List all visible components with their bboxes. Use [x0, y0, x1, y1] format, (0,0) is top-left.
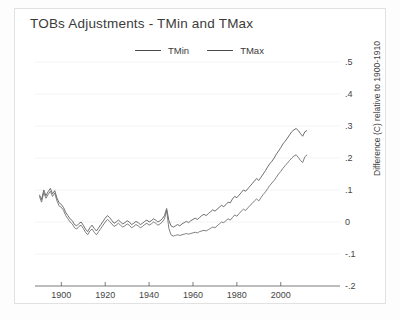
chart-figure: TOBs Adjustments - TMin and TMax TMin TM…: [0, 0, 400, 320]
x-tick-label: 1940: [139, 290, 159, 300]
y-tick-label: -.1: [345, 249, 356, 259]
plot-canvas: [0, 0, 400, 320]
x-tick-label: 2000: [271, 290, 291, 300]
y-tick-label: .4: [345, 89, 353, 99]
x-tick-label: 1900: [51, 290, 71, 300]
y-axis-title: Difference (C) relative to 1900-1910: [372, 41, 382, 176]
x-tick-label: 1980: [227, 290, 247, 300]
series-line-tmax: [39, 155, 307, 236]
y-tick-label: .3: [345, 121, 353, 131]
series-line-tmin: [39, 129, 307, 232]
y-tick-label: .5: [345, 57, 353, 67]
y-tick-label: .2: [345, 153, 353, 163]
x-tick-label: 1920: [95, 290, 115, 300]
y-tick-label: -.2: [345, 281, 356, 291]
x-tick-label: 1960: [183, 290, 203, 300]
y-tick-label: 0: [345, 217, 350, 227]
y-tick-label: .1: [345, 185, 353, 195]
